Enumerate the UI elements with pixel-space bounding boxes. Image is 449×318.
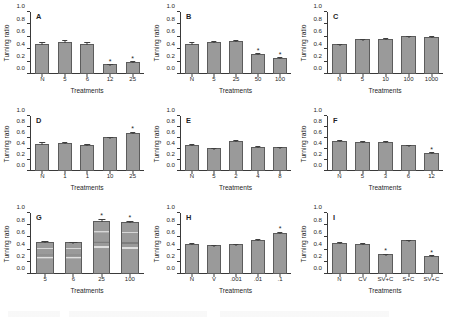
bar	[58, 143, 72, 171]
bar: *	[93, 221, 111, 274]
x-tick-label: 6	[72, 276, 75, 282]
x-tick-label: N	[190, 76, 194, 82]
error-bar	[258, 54, 259, 55]
y-axis-label: Turning ratio	[300, 25, 307, 62]
error-bar	[280, 233, 281, 235]
bar-group: 1000	[420, 12, 443, 74]
y-axis-label: Turning ratio	[300, 225, 307, 262]
error-bar-cap	[42, 241, 49, 242]
y-tick	[27, 61, 30, 62]
y-tick	[324, 36, 327, 37]
bar-group: 1	[76, 116, 99, 171]
bar-group: N	[328, 116, 351, 171]
significance-marker: *	[100, 212, 103, 219]
y-tick-label: 0.4	[166, 140, 175, 146]
error-bar	[339, 243, 340, 244]
y-tick	[177, 126, 180, 127]
x-tick-label: S+C	[403, 276, 415, 282]
bar-group: 2	[225, 116, 247, 171]
error-bar	[192, 244, 193, 245]
y-tick	[324, 159, 327, 160]
error-bar-cap	[337, 44, 343, 45]
panel-f: F0.00.20.40.60.81.0Turning ratioN536*12T…	[297, 104, 449, 201]
significance-marker: *	[279, 51, 282, 58]
bar	[273, 147, 287, 171]
y-tick-label: 0.2	[16, 253, 25, 259]
x-axis-label: Treatments	[327, 184, 443, 191]
error-bar-cap	[126, 221, 133, 222]
error-bar-cap	[62, 40, 68, 41]
y-tick	[177, 224, 180, 225]
bar: *	[126, 62, 140, 74]
y-tick	[324, 224, 327, 225]
bar-group: 6	[397, 116, 420, 171]
plot-area: A0.00.20.40.60.81.0Turning ratioN56*12*2…	[30, 12, 144, 74]
plot-area: F0.00.20.40.60.81.0Turning ratioN536*12T…	[327, 116, 443, 171]
bar-group: 5	[351, 116, 374, 171]
x-tick-label: 100	[275, 76, 285, 82]
x-tick-label: N	[40, 76, 44, 82]
error-bar	[87, 43, 88, 45]
plot-area: G0.00.20.40.60.81.0Turning ratio56*25*10…	[30, 213, 144, 274]
bar: *	[273, 58, 287, 74]
bar-group: N	[31, 116, 54, 171]
panel-e: E0.00.20.40.60.81.0Turning ratioN5248Tre…	[150, 104, 297, 201]
bar	[251, 147, 265, 171]
y-axis-label: Turning ratio	[300, 125, 307, 162]
error-bar	[408, 241, 409, 242]
x-tick-label: 6	[407, 173, 410, 179]
error-bar	[192, 43, 193, 44]
error-bar-cap	[189, 42, 194, 43]
x-tick-label: N	[190, 276, 194, 282]
bar: *	[424, 153, 438, 171]
y-tick	[177, 148, 180, 149]
bar: *	[126, 133, 140, 171]
y-tick-label: 0.4	[313, 40, 322, 46]
y-tick-label: 0.4	[16, 241, 25, 247]
x-tick-label: .01	[254, 276, 262, 282]
bar-series: N5248	[181, 116, 291, 171]
bar-group: CV	[351, 213, 374, 274]
error-bar-cap	[233, 40, 238, 41]
y-tick	[177, 137, 180, 138]
error-bar	[45, 242, 46, 243]
error-bar-cap	[337, 140, 343, 141]
bar-group: 3	[374, 116, 397, 171]
bar: *	[273, 233, 287, 274]
y-tick-label: 0.2	[16, 151, 25, 157]
x-tick-label: 5	[212, 173, 215, 179]
y-tick-label: 0.4	[166, 40, 175, 46]
bar-group: *50	[247, 12, 269, 74]
y-tick-label: 1.0	[313, 204, 322, 210]
error-bar-cap	[40, 142, 46, 143]
significance-marker: *	[430, 146, 433, 153]
error-bar	[129, 222, 130, 223]
bar-group: N	[31, 12, 54, 74]
y-tick	[324, 23, 327, 24]
bar	[207, 148, 221, 171]
panel-c: C0.00.20.40.60.81.0Turning ratioN5101001…	[297, 0, 449, 104]
y-tick	[177, 61, 180, 62]
bar-series: N525*50*100	[181, 12, 291, 74]
x-tick-label: 100	[403, 76, 413, 82]
bar	[229, 41, 243, 74]
y-tick	[27, 23, 30, 24]
y-tick-label: 0.6	[166, 129, 175, 135]
bar-series: NV.001.01*.1	[181, 213, 291, 274]
error-bar-cap	[233, 140, 238, 141]
caption-artifact	[8, 311, 441, 317]
y-tick-label: 0.0	[313, 265, 322, 271]
panel-b: B0.00.20.40.60.81.0Turning ratioN525*50*…	[150, 0, 297, 104]
y-tick	[177, 11, 180, 12]
bar: *	[103, 64, 117, 74]
y-tick-label: 0.2	[166, 253, 175, 259]
y-tick	[324, 11, 327, 12]
bar	[401, 145, 415, 171]
x-tick-label: .1	[277, 276, 282, 282]
y-tick-label: 0.8	[16, 216, 25, 222]
bar-series: N5101001000	[328, 12, 443, 74]
x-tick-label: SV+C	[378, 276, 394, 282]
bar-group: N	[328, 213, 351, 274]
significance-marker: *	[131, 125, 134, 132]
error-bar-cap	[233, 244, 238, 245]
